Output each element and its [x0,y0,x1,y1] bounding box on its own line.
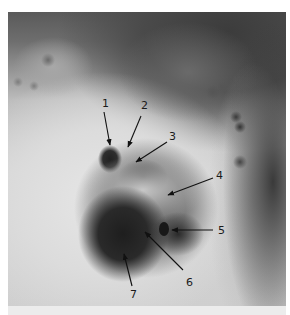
annotation-label-6: 6 [186,276,193,289]
annotation-arrow-3 [136,142,167,162]
annotation-label-7: 7 [130,288,137,301]
annotation-label-5: 5 [218,224,225,237]
annotation-label-2: 2 [141,99,148,112]
annotation-label-1: 1 [102,97,109,110]
annotation-label-3: 3 [169,130,176,143]
annotation-arrow-1 [104,112,110,145]
annotation-arrow-7 [124,254,132,286]
annotation-arrow-2 [128,116,141,147]
annotation-label-4: 4 [216,169,223,182]
annotation-arrow-6 [145,232,183,270]
annotation-layer: 1234567 [0,0,290,315]
annotation-arrow-4 [168,178,213,195]
